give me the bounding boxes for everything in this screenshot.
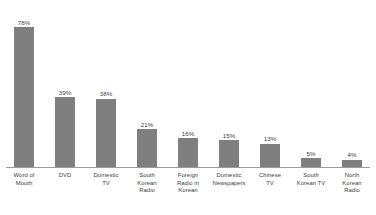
bar-group: 4% <box>332 0 372 167</box>
bar-value-label: 21% <box>127 121 167 128</box>
bar-group: 21% <box>127 0 167 167</box>
bar <box>96 99 116 167</box>
bar-value-label: 78% <box>4 19 44 26</box>
bar-value-label: 15% <box>209 132 249 139</box>
bar-group: 38% <box>86 0 126 167</box>
bar-group: 15% <box>209 0 249 167</box>
bar-group: 39% <box>45 0 85 167</box>
bar-chart: 78% 39% 38% 21% 16% 15% 13% 5% <box>0 0 376 215</box>
bar-group: 13% <box>250 0 290 167</box>
bar <box>55 97 75 167</box>
bar <box>342 160 362 167</box>
bar <box>219 140 239 167</box>
bar-value-label: 38% <box>86 90 126 97</box>
bar <box>178 138 198 167</box>
bar <box>260 144 280 167</box>
bar-value-label: 5% <box>291 150 331 157</box>
bar <box>14 27 34 167</box>
category-label: NorthKoreanRadio <box>328 172 376 195</box>
bar <box>137 129 157 167</box>
bar <box>301 158 321 167</box>
plot-area: 78% 39% 38% 21% 16% 15% 13% 5% <box>0 0 376 167</box>
bar-value-label: 16% <box>168 130 208 137</box>
bar-value-label: 39% <box>45 89 85 96</box>
bar-value-label: 4% <box>332 151 372 158</box>
bar-group: 16% <box>168 0 208 167</box>
x-axis-line <box>6 167 370 168</box>
bar-group: 5% <box>291 0 331 167</box>
bar-value-label: 13% <box>250 135 290 142</box>
bar-group: 78% <box>4 0 44 167</box>
category-axis-labels: Word ofMouth DVD DomesticTV SouthKoreanR… <box>0 172 376 215</box>
